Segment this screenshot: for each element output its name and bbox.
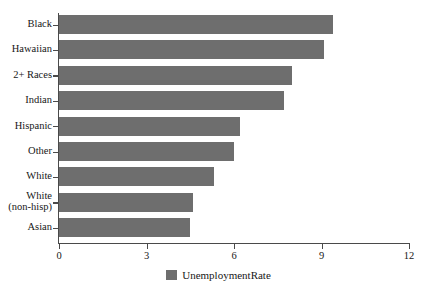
y-axis-tick: [53, 75, 59, 76]
x-axis-tick-label: 9: [310, 250, 334, 262]
bar-chart: BlackHawaiian2+ RacesIndianHispanicOther…: [0, 0, 437, 295]
bar-white--non-hisp-: [59, 193, 193, 212]
chart-legend: UnemploymentRate: [0, 269, 437, 281]
y-axis-label-line: White: [0, 190, 52, 201]
y-axis-label: Hispanic: [0, 120, 52, 131]
x-axis-tick-label: 3: [135, 250, 159, 262]
bar-fill: [59, 40, 324, 59]
bar-fill: [59, 117, 240, 136]
y-axis-label: 2+ Races: [0, 69, 52, 80]
y-axis-label-line: Other: [0, 145, 52, 156]
y-axis-label-line: White: [0, 170, 52, 181]
x-axis-tick: [409, 244, 410, 249]
y-axis-tick: [53, 228, 59, 229]
x-axis-tick-label: 6: [222, 250, 246, 262]
y-axis-tick: [53, 50, 59, 51]
y-axis-label-line: Indian: [0, 94, 52, 105]
y-axis-tick: [53, 202, 59, 203]
y-axis-label-line: Hispanic: [0, 120, 52, 131]
y-axis-tick: [53, 126, 59, 127]
y-axis-label-line: (non-hisp): [0, 201, 52, 212]
legend-swatch-unemploymentrate: [166, 270, 177, 280]
x-axis-tick: [59, 244, 60, 249]
x-axis-tick-label: 12: [397, 250, 421, 262]
y-axis-tick: [53, 25, 59, 26]
y-axis-label: Hawaiian: [0, 43, 52, 54]
bar-black: [59, 15, 333, 34]
y-axis-label: Indian: [0, 94, 52, 105]
x-axis-tick: [147, 244, 148, 249]
bar-fill: [59, 218, 190, 237]
bar-fill: [59, 15, 333, 34]
y-axis-label: White: [0, 170, 52, 181]
y-axis-label: Asian: [0, 221, 52, 232]
y-axis-label: Other: [0, 145, 52, 156]
y-axis-label: Black: [0, 18, 52, 29]
y-axis-tick: [53, 152, 59, 153]
bar-fill: [59, 66, 292, 85]
bar-fill: [59, 193, 193, 212]
y-axis-tick: [53, 101, 59, 102]
legend-label-unemploymentrate: UnemploymentRate: [182, 269, 271, 281]
bar-indian: [59, 91, 284, 110]
bars-layer: [59, 14, 409, 243]
y-axis-label: White(non-hisp): [0, 190, 52, 212]
y-axis-label-line: 2+ Races: [0, 69, 52, 80]
y-axis-label-line: Hawaiian: [0, 43, 52, 54]
x-axis-tick: [234, 244, 235, 249]
y-axis-label-line: Black: [0, 18, 52, 29]
bar-fill: [59, 167, 214, 186]
bar-other: [59, 142, 234, 161]
y-axis-label-line: Asian: [0, 221, 52, 232]
bar-hispanic: [59, 117, 240, 136]
bar-2--races: [59, 66, 292, 85]
bar-hawaiian: [59, 40, 324, 59]
bar-white: [59, 167, 214, 186]
x-axis-tick-label: 0: [47, 250, 71, 262]
bar-asian: [59, 218, 190, 237]
bar-fill: [59, 91, 284, 110]
x-axis-tick: [322, 244, 323, 249]
bar-fill: [59, 142, 234, 161]
y-axis-tick: [53, 177, 59, 178]
